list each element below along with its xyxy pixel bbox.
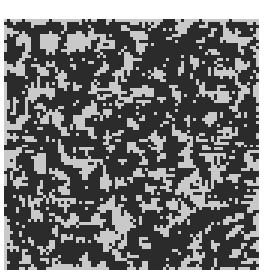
noise-texture-image (4, 19, 259, 270)
noise-pattern (4, 19, 259, 270)
